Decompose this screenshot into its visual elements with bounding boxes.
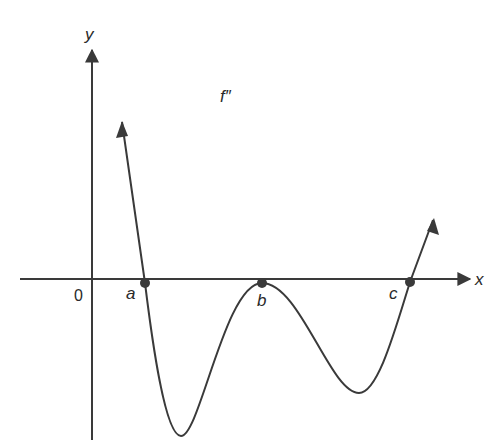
curve-arrow-left-icon <box>116 121 128 138</box>
point-a-label: a <box>126 284 135 303</box>
point-c <box>405 277 415 287</box>
graph-canvas: y x 0 a b c f″ <box>0 0 503 447</box>
point-c-label: c <box>389 284 398 303</box>
point-b-label: b <box>257 291 266 310</box>
y-axis-label: y <box>84 25 95 44</box>
origin-label: 0 <box>74 287 83 304</box>
point-b <box>257 278 267 288</box>
point-a <box>140 278 150 288</box>
x-axis-label: x <box>474 270 484 289</box>
function-label: f″ <box>220 87 232 106</box>
